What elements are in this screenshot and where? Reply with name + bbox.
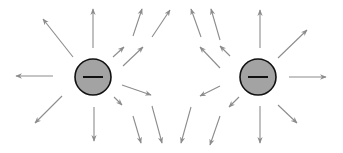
right-charge xyxy=(240,59,276,95)
field-arrow-icon xyxy=(210,116,220,145)
field-arrow-icon xyxy=(133,9,142,36)
field-arrow-icon xyxy=(152,10,170,37)
field-arrow-icon xyxy=(122,85,151,95)
field-arrow-icon xyxy=(35,96,62,123)
field-arrow-icon xyxy=(113,47,124,57)
field-diagram xyxy=(0,0,343,153)
field-arrow-icon xyxy=(43,19,73,57)
field-arrow-icon xyxy=(278,30,307,58)
field-arrow-icon xyxy=(133,116,141,143)
field-arrow-icon xyxy=(114,97,122,105)
field-arrow-icon xyxy=(278,105,297,123)
field-arrow-icon xyxy=(200,86,220,96)
field-arrows xyxy=(16,9,326,145)
field-arrow-icon xyxy=(200,47,220,68)
field-arrow-icon xyxy=(211,9,220,40)
charges xyxy=(75,59,276,95)
field-arrow-icon xyxy=(229,97,239,107)
field-arrow-icon xyxy=(123,47,143,66)
field-arrow-icon xyxy=(220,46,230,56)
field-arrow-icon xyxy=(152,106,162,143)
field-arrow-icon xyxy=(191,9,201,37)
field-arrow-icon xyxy=(181,107,191,143)
left-charge xyxy=(75,59,111,95)
